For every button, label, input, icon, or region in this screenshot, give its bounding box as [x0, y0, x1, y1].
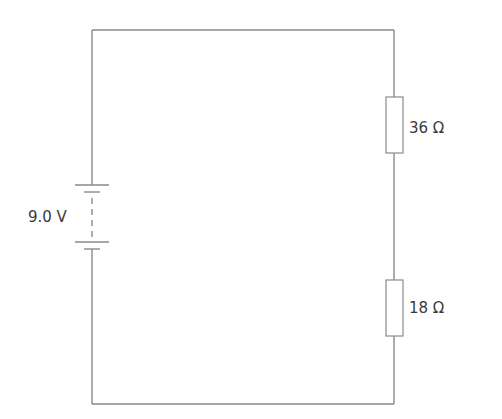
- circuit-diagram: 9.0 V 36 Ω 18 Ω: [0, 0, 502, 419]
- resistor-36-ohm: [386, 97, 403, 153]
- battery-label: 9.0 V: [28, 208, 68, 226]
- resistor-36-ohm-label: 36 Ω: [409, 119, 444, 137]
- resistor-18-ohm: [386, 280, 403, 336]
- resistor-18-ohm-label: 18 Ω: [409, 299, 444, 317]
- battery: [75, 185, 109, 249]
